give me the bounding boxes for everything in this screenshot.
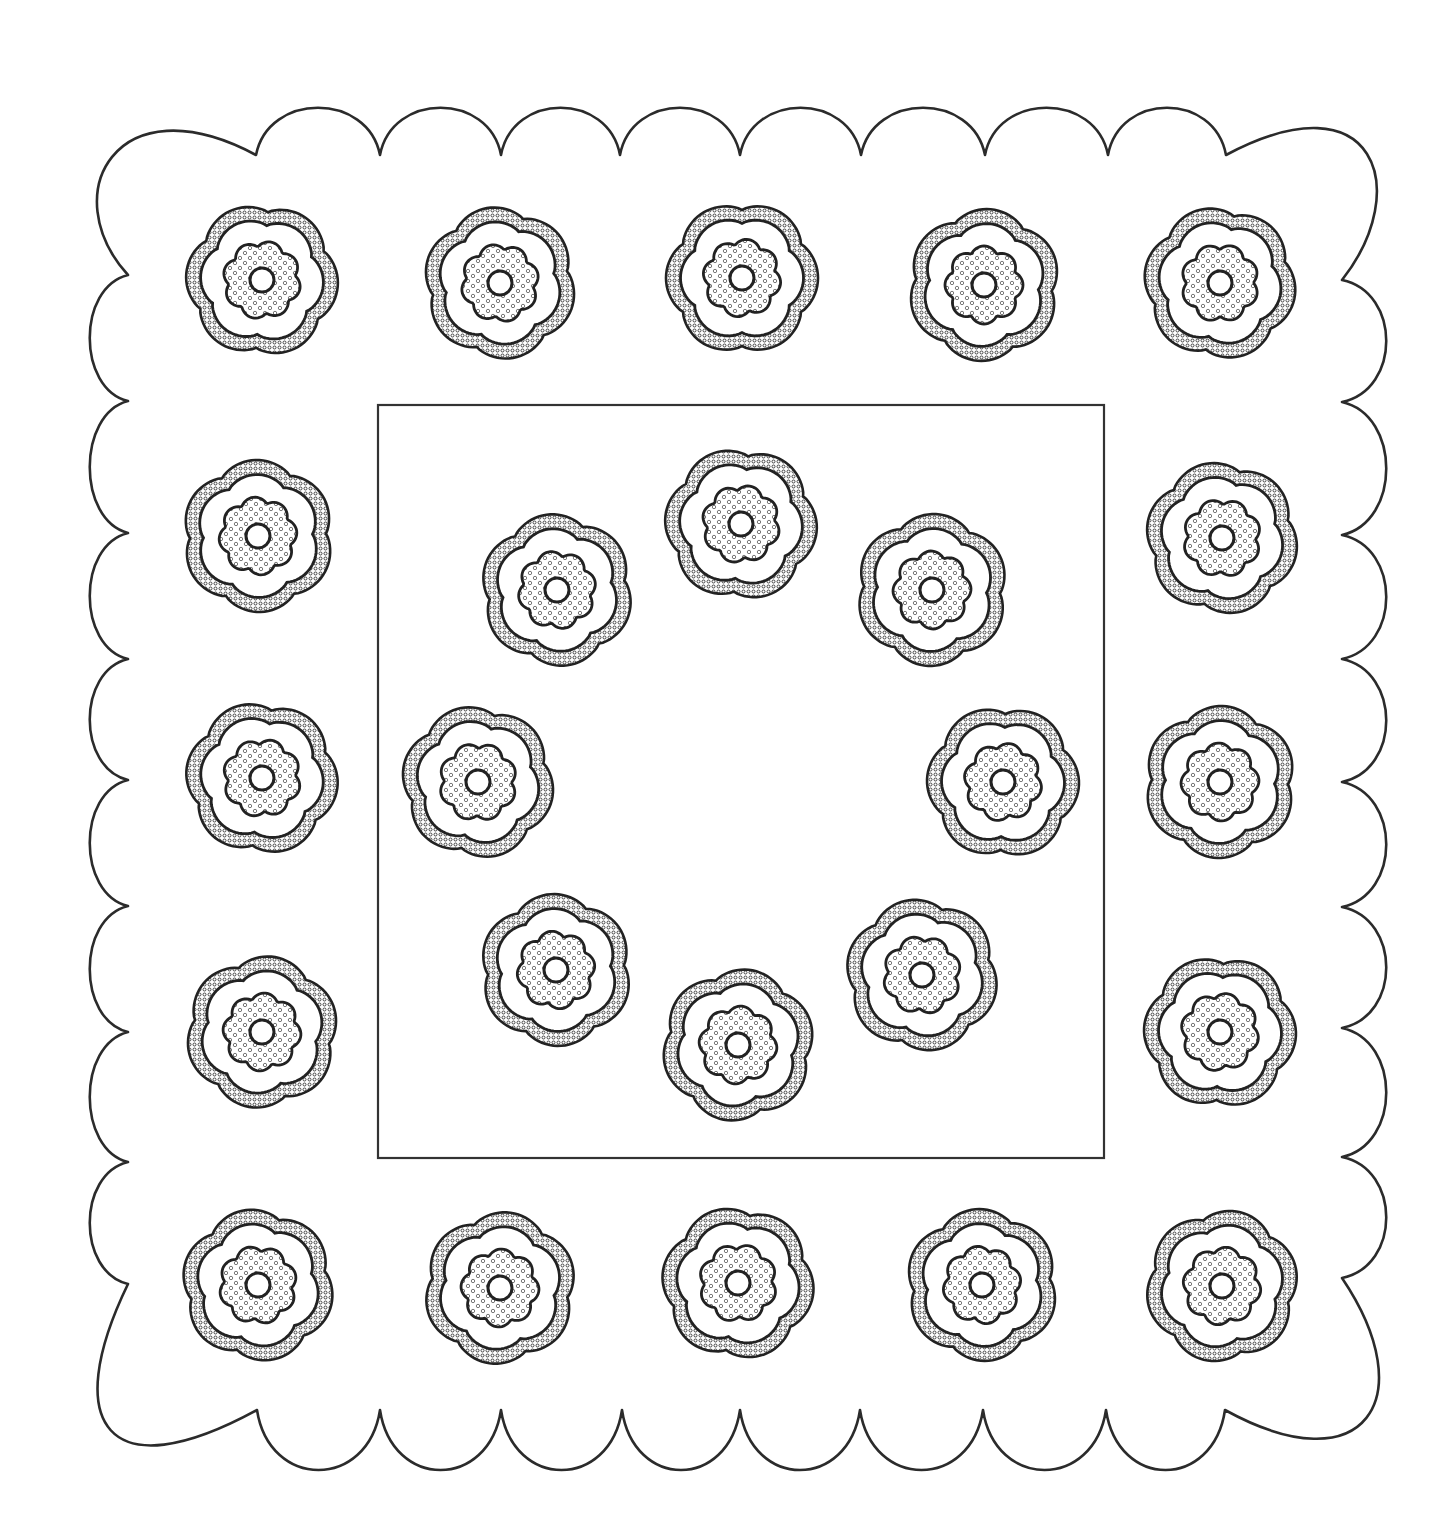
flower-motif (666, 206, 818, 349)
flower-motif (1144, 960, 1296, 1105)
flower-motif (860, 514, 1005, 666)
flower-motif (663, 1209, 814, 1357)
flower-center-circle (1210, 526, 1234, 550)
flower-center-circle (488, 271, 512, 295)
flower-center-circle (730, 266, 754, 290)
flower-motif (847, 900, 996, 1050)
flower-motif (186, 704, 337, 851)
flower-center-circle (970, 1273, 994, 1297)
flower-center-circle (246, 1273, 270, 1297)
flower-center-circle (246, 524, 270, 548)
outer-flower-row-group (184, 206, 1297, 1363)
flower-motif (909, 1209, 1055, 1361)
flower-center-circle (250, 1020, 274, 1044)
flower-motif (426, 1212, 573, 1363)
flower-center-circle (920, 578, 944, 602)
flower-center-circle (972, 273, 996, 297)
quilt-illustration (0, 0, 1444, 1525)
flower-motif (184, 1210, 333, 1361)
flower-motif (1147, 463, 1297, 613)
flower-center-circle (250, 268, 274, 292)
flower-motif (665, 451, 817, 597)
flower-motif (483, 894, 628, 1046)
inner-flower-ring-group (403, 451, 1079, 1121)
flower-motif (403, 707, 553, 856)
flower-motif (911, 209, 1057, 361)
flower-motif (927, 710, 1079, 854)
flower-center-circle (726, 1271, 750, 1295)
flower-center-circle (991, 770, 1015, 794)
flower-center-circle (544, 958, 568, 982)
flower-motif (1148, 706, 1292, 858)
flower-center-circle (1208, 271, 1232, 295)
flower-center-circle (488, 1276, 512, 1300)
flower-motif (188, 957, 336, 1108)
flower-center-circle (1208, 1020, 1232, 1044)
flower-motif (186, 460, 330, 612)
flower-center-circle (1210, 1274, 1234, 1298)
flower-center-circle (729, 512, 753, 536)
flower-center-circle (1208, 770, 1232, 794)
flower-motif (186, 207, 338, 353)
flower-center-circle (466, 770, 490, 794)
flower-motif (426, 208, 574, 359)
flower-center-circle (726, 1033, 750, 1057)
flower-motif (664, 970, 812, 1121)
flower-motif (1147, 1211, 1296, 1361)
flower-motif (1145, 209, 1296, 358)
flower-motif (483, 514, 630, 665)
flower-center-circle (250, 766, 274, 790)
flower-center-circle (545, 578, 569, 602)
flower-center-circle (910, 963, 934, 987)
